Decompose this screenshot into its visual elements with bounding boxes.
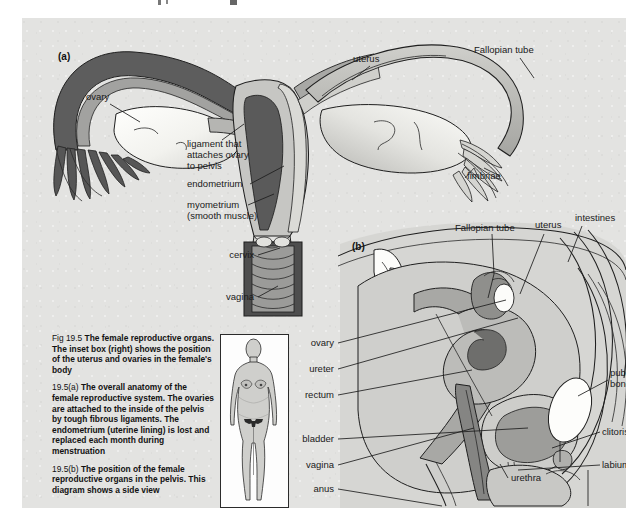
panel-b-id: (b) (352, 241, 365, 252)
label-ligament-line3: to pelvis (187, 160, 222, 171)
label-ovary-a: ovary (86, 91, 109, 102)
label-rectum: rectum (305, 389, 334, 400)
panel-a-id: (a) (58, 51, 70, 62)
caption-a: 19.5(a) The overall anatomy of the femal… (52, 382, 214, 456)
figure-caption: Fig 19.5 The female reproductive organs.… (52, 333, 214, 502)
caption-main: Fig 19.5 The female reproductive organs.… (52, 333, 214, 375)
label-fimbriae: fimbriae (467, 170, 501, 181)
caption-b: 19.5(b) The position of the female repro… (52, 464, 214, 496)
label-ovary-b: ovary (311, 337, 334, 348)
label-fallopian-tube-a: Fallopian tube (474, 44, 534, 55)
label-anus: anus (313, 483, 334, 494)
caption-a-text: The overall anatomy of the female reprod… (52, 382, 214, 456)
caption-main-tag: Fig 19.5 (52, 333, 82, 343)
label-vagina-b: vagina (306, 459, 335, 470)
label-bladder: bladder (302, 433, 334, 444)
label-labium: labium (602, 459, 626, 470)
label-pubic-bone-line1: pubic (610, 367, 626, 378)
label-intestines: intestines (575, 212, 615, 223)
label-ureter: ureter (309, 363, 334, 374)
label-ligament-line2: attaches ovary (187, 149, 249, 160)
female-body-inset-box (220, 334, 289, 508)
label-cervix: cervix (229, 249, 254, 260)
label-uterus-b: uterus (535, 219, 562, 230)
panel-b-artwork (338, 222, 626, 508)
label-myometrium-line2: (smooth muscle) (187, 210, 257, 221)
label-fallopian-tube-b: Fallopian tube (455, 222, 515, 233)
caption-a-tag: 19.5(a) (52, 382, 79, 392)
label-clitoris: clitoris (602, 426, 626, 437)
label-myometrium-line1: myometrium (187, 199, 239, 210)
top-cropped-text-marks (0, 0, 630, 7)
label-pubic-bone-line2: bone (610, 378, 626, 389)
label-ligament-line1: ligament that (187, 138, 242, 149)
figure-19-5: (a) ovary ligament that attaches ovary t… (22, 18, 626, 508)
female-body-silhouette (221, 335, 286, 505)
caption-b-tag: 19.5(b) (52, 464, 79, 474)
label-endometrium: endometrium (187, 178, 243, 189)
label-uterus-a: uterus (353, 53, 380, 64)
label-vagina-a: vagina (226, 291, 255, 302)
label-urethra: urethra (511, 472, 542, 483)
